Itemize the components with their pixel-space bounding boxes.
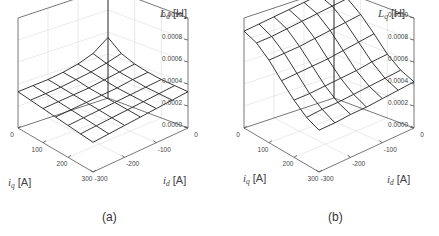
svg-text:0: 0 [420, 131, 424, 138]
svg-text:0: 0 [194, 131, 198, 138]
panel-a: 0.00100.00080.00060.00040.00020.0000 010… [8, 0, 198, 224]
figure-canvas: 0.00100.00080.00060.00040.00020.0000 010… [0, 0, 439, 236]
panel-b-iq-label: iq[A] [243, 172, 266, 186]
svg-text:0.0008: 0.0008 [162, 33, 182, 40]
svg-text:-300: -300 [94, 175, 107, 182]
panel-b-z-ticks: 0.00100.00080.00060.00040.00020.0000 [388, 11, 414, 128]
panel-b-id-label: id[A] [387, 173, 410, 187]
svg-text:100: 100 [258, 146, 269, 153]
svg-text:-300: -300 [320, 175, 333, 182]
svg-text:0.0004: 0.0004 [162, 77, 182, 84]
svg-text:200: 200 [57, 160, 68, 167]
panel-a-iq-ticks: 0100200300 [10, 126, 96, 182]
svg-text:0.0000: 0.0000 [388, 121, 408, 128]
panel-b-z-label: Lq[H] [377, 7, 405, 21]
panel-a-caption: (a) [102, 210, 117, 224]
svg-text:0: 0 [236, 131, 240, 138]
panel-a-iq-label: iq[A] [8, 176, 31, 190]
svg-text:-100: -100 [384, 146, 397, 153]
svg-text:-100: -100 [158, 146, 171, 153]
svg-text:0.0000: 0.0000 [162, 121, 182, 128]
panel-a-id-label: id[A] [163, 174, 186, 188]
svg-text:0.0004: 0.0004 [388, 77, 408, 84]
svg-text:0: 0 [10, 131, 14, 138]
svg-text:0.0002: 0.0002 [388, 99, 408, 106]
svg-text:300: 300 [308, 175, 319, 182]
svg-text:-200: -200 [352, 160, 365, 167]
svg-text:100: 100 [32, 146, 43, 153]
panel-a-z-label: Ld[H] [159, 7, 187, 21]
svg-text:300: 300 [82, 175, 93, 182]
svg-text:200: 200 [283, 160, 294, 167]
svg-text:-200: -200 [126, 160, 139, 167]
svg-text:0.0008: 0.0008 [388, 33, 408, 40]
panel-a-z-ticks: 0.00100.00080.00060.00040.00020.0000 [162, 11, 188, 128]
svg-text:0.0006: 0.0006 [388, 55, 408, 62]
svg-text:0.0006: 0.0006 [162, 55, 182, 62]
panel-b-caption: (b) [328, 210, 343, 224]
panel-b-surface-mesh [244, 0, 414, 130]
panel-b-iq-ticks: 0100200300 [236, 126, 322, 182]
panel-b: 0.00100.00080.00060.00040.00020.0000 010… [236, 0, 424, 224]
svg-text:0.0002: 0.0002 [162, 99, 182, 106]
